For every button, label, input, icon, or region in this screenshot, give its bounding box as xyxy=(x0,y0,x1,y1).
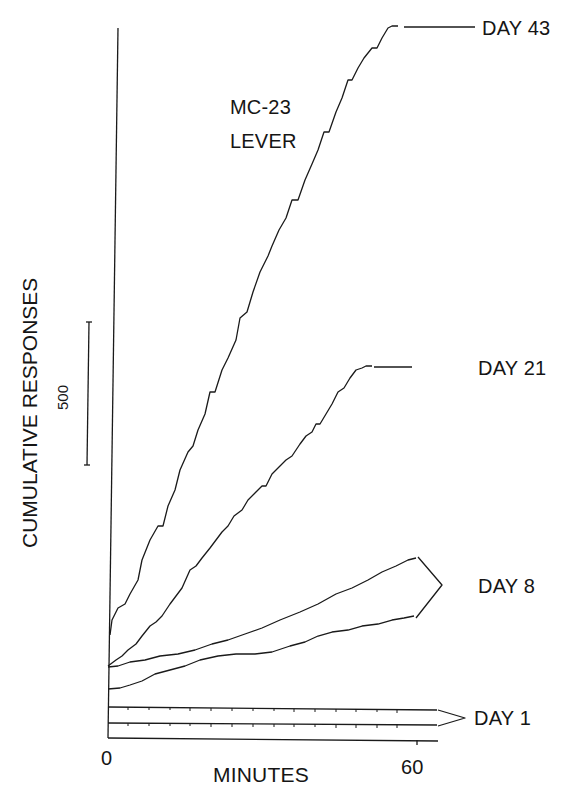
legend-day-8: DAY 8 xyxy=(478,575,535,598)
y-axis xyxy=(108,28,118,738)
legend-day-43: DAY 43 xyxy=(482,17,550,40)
x-tick-label-60: 60 xyxy=(401,756,424,779)
series-day-21 xyxy=(108,366,372,666)
legend-day-21: DAY 21 xyxy=(478,357,546,380)
series-day-1-upper xyxy=(108,707,437,710)
x-axis xyxy=(108,738,438,741)
chart-title-line-1: MC-23 xyxy=(230,96,291,119)
day-8-bracket xyxy=(416,557,442,618)
scale-bar xyxy=(84,322,92,465)
scale-bar-label: 500 xyxy=(54,385,71,410)
x-tick-label-0: 0 xyxy=(101,747,112,770)
cumulative-record-plot xyxy=(0,0,588,803)
series-day-1-lower xyxy=(108,723,437,725)
chart-title-line-2: LEVER xyxy=(230,130,297,153)
day-1-bracket xyxy=(438,710,465,726)
y-axis-label: CUMULATIVE RESPONSES xyxy=(18,278,42,548)
series-day-8-lower xyxy=(108,616,414,689)
legend-day-1: DAY 1 xyxy=(474,707,531,730)
x-axis-label: MINUTES xyxy=(213,763,309,787)
series-day-8-upper xyxy=(108,558,416,667)
